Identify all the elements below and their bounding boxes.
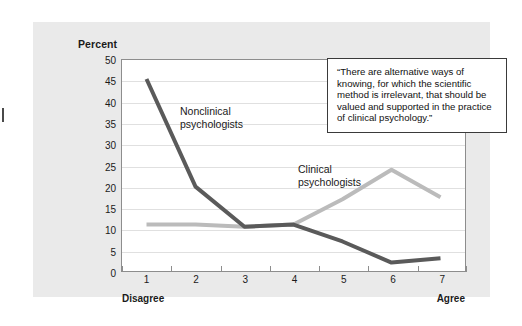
y-tick-label: 25 [105,161,116,172]
y-tick-label: 50 [105,55,116,66]
series-label-nonclinical: Nonclinicalpsychologists [180,105,243,130]
x-axis-anchor-agree: Agree [437,293,465,304]
y-tick-label: 10 [105,225,116,236]
x-tick-label: 4 [292,274,298,285]
x-axis-anchor-disagree: Disagree [122,293,164,304]
page-edge-mark [2,108,4,122]
y-tick-label: 30 [105,140,116,151]
x-tick-label: 6 [390,274,396,285]
x-tick-label: 1 [144,274,150,285]
y-tick-label: 40 [105,97,116,108]
y-tick-label: 0 [110,268,116,279]
y-tick-label: 5 [110,246,116,257]
x-tick-label: 2 [193,274,199,285]
x-tick-label: 7 [440,274,446,285]
x-tick-mark [466,266,467,272]
quote-callout: “There are alternative ways of knowing, … [327,58,507,133]
x-tick-label: 5 [341,274,347,285]
y-axis-title: Percent [78,38,117,50]
y-tick-label: 45 [105,76,116,87]
y-tick-label: 35 [105,118,116,129]
y-tick-label: 20 [105,182,116,193]
y-tick-label: 15 [105,204,116,215]
plot-area: 05101520253035404550 1234567 Nonclinical… [121,59,466,272]
x-tick-label: 3 [242,274,248,285]
series-label-clinical: Clinicalpsychologists [298,163,361,188]
figure-panel: Percent 05101520253035404550 1234567 Non… [33,22,490,297]
